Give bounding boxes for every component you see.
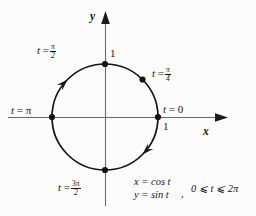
label-t-zero-value: 0 [178,103,184,115]
x-axis-arrowhead [215,113,228,122]
label-t-pi-value: π [26,104,32,116]
fraction-pi-over-4: π4 [165,66,171,84]
x-tick-label-one: 1 [163,121,169,132]
point-t-3pi-over-2 [102,167,108,173]
point-t-pi-over-4 [139,76,145,82]
point-t-zero [155,114,161,120]
point-t-pi-over-2 [102,61,108,67]
parametric-circle-figure: y x t =π2 1 t =π4 t = π t = 0 1 t =3π2 x… [0,0,256,216]
fraction-pi-over-4-denominator: 4 [165,75,171,84]
fraction-3pi-over-2: 3π2 [71,180,81,198]
parametric-equations: x = cos t y = sin t [134,176,171,201]
equation-y: y = sin t [134,189,171,202]
label-t-pi-over-4: t =π4 [152,66,171,84]
y-tick-label-one: 1 [110,48,116,59]
fraction-pi-over-2: π2 [50,43,56,61]
label-t-3pi-over-2: t =3π2 [58,180,81,198]
label-t-pi: t = π [11,105,31,116]
label-t-pi-over-4-eq: = [158,67,164,79]
label-t-3pi-over-2-eq: = [64,181,70,193]
label-t-pi-over-2: t =π2 [37,43,56,61]
label-t-pi-over-2-eq: = [43,44,49,56]
fraction-3pi-over-2-denominator: 2 [71,189,81,198]
point-t-pi [49,114,55,120]
y-axis-arrowhead [101,11,110,24]
equations-separator: , [181,188,184,199]
y-axis-label: y [90,11,95,23]
equation-x: x = cos t [134,176,171,189]
parameter-domain: 0 ⩽ t ⩽ 2π [191,182,238,194]
label-t-zero: t = 0 [163,104,183,115]
x-axis-label: x [203,126,209,138]
fraction-pi-over-2-denominator: 2 [50,52,56,61]
